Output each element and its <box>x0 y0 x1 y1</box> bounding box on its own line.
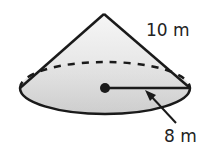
cone-diagram: 10 m 8 m <box>0 0 211 150</box>
slant-height-label: 10 m <box>146 20 190 40</box>
radius-label: 8 m <box>164 126 197 146</box>
